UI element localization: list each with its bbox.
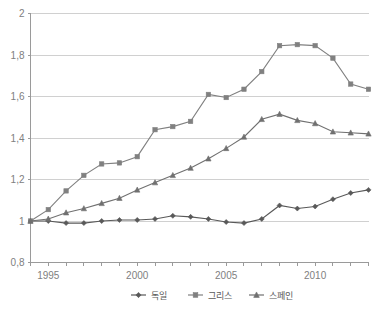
chart-legend: 독일그리스스페인: [131, 291, 293, 301]
data-point-marker: [117, 161, 121, 165]
chart-canvas: 0,811,21,41,61,82 1995200020052010 독일그리스…: [0, 0, 379, 315]
data-point-marker: [188, 119, 192, 123]
data-point-marker: [82, 173, 86, 177]
series-line: [31, 45, 369, 221]
data-point-marker: [171, 124, 175, 128]
line-chart: 0,811,21,41,61,82 1995200020052010 독일그리스…: [0, 0, 379, 315]
data-point-marker: [313, 204, 318, 209]
x-tick-label: 2005: [215, 270, 238, 281]
legend-item-3[interactable]: 스페인: [249, 291, 293, 301]
legend-label: 스페인: [269, 291, 293, 301]
data-point-marker: [153, 128, 157, 132]
data-point-marker: [99, 162, 103, 166]
data-point-marker: [188, 214, 193, 219]
y-tick-label: 2: [19, 8, 25, 19]
data-point-marker: [206, 92, 210, 96]
y-tick-label: 1,6: [11, 91, 25, 102]
data-series: [28, 42, 371, 225]
data-point-marker: [64, 189, 68, 193]
x-tick-label: 2000: [126, 270, 149, 281]
data-point-marker: [117, 217, 122, 222]
data-point-marker: [188, 165, 193, 170]
y-axis-tick-labels: 0,811,21,41,61,82: [11, 8, 25, 268]
data-point-marker: [330, 197, 335, 202]
y-tick-label: 1,8: [11, 50, 25, 61]
data-point-marker: [331, 56, 335, 60]
data-point-marker: [170, 213, 175, 218]
x-tick-label: 1995: [37, 270, 60, 281]
data-point-marker: [349, 82, 353, 86]
data-point-marker: [277, 111, 282, 116]
data-point-marker: [348, 190, 353, 195]
x-tick-label: 2010: [304, 270, 327, 281]
data-point-marker: [224, 95, 228, 99]
gridlines: [31, 14, 369, 263]
data-point-marker: [99, 219, 104, 224]
data-point-marker: [260, 69, 264, 73]
legend-item-2[interactable]: 그리스: [188, 291, 232, 301]
data-point-marker: [224, 145, 229, 150]
data-point-marker: [135, 154, 139, 158]
series-2: [28, 42, 370, 223]
y-tick-label: 1,4: [11, 133, 25, 144]
y-tick-label: 1,2: [11, 174, 25, 185]
data-point-marker: [224, 220, 229, 225]
legend-marker-icon: [193, 293, 198, 298]
data-point-marker: [313, 43, 317, 47]
y-tick-label: 1: [19, 216, 25, 227]
axes: [28, 14, 369, 266]
data-point-marker: [242, 87, 246, 91]
data-point-marker: [295, 206, 300, 211]
x-axis-tick-labels: 1995200020052010: [37, 270, 327, 281]
series-3: [28, 111, 371, 223]
series-1: [28, 187, 371, 225]
legend-marker-icon: [136, 292, 141, 297]
legend-label: 독일: [151, 291, 167, 301]
legend-item-1[interactable]: 독일: [131, 291, 167, 301]
data-point-marker: [46, 207, 50, 211]
data-point-marker: [295, 42, 299, 46]
data-point-marker: [206, 156, 211, 161]
data-point-marker: [366, 187, 371, 192]
data-point-marker: [366, 87, 370, 91]
y-tick-label: 0,8: [11, 257, 25, 268]
legend-label: 그리스: [208, 291, 232, 301]
data-point-marker: [277, 43, 281, 47]
data-point-marker: [135, 217, 140, 222]
